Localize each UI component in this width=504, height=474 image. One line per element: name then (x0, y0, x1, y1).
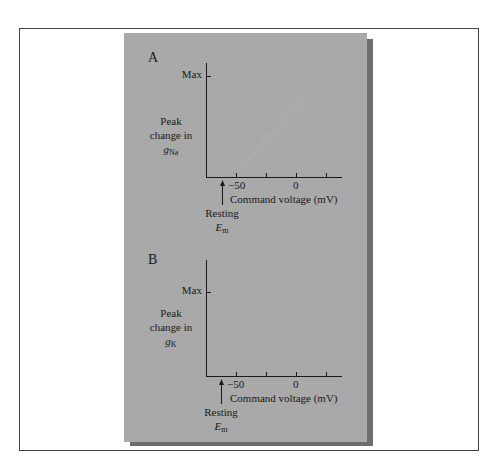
x-tick-neg50-a: −50 (228, 179, 245, 191)
plot-b: B Max Peak change in gK −50 0 Command vo… (124, 233, 367, 442)
resting-text-a: Resting (197, 206, 247, 220)
resting-em-label-b: Resting Em (196, 405, 246, 437)
resting-sub-b: m (221, 425, 227, 434)
x-tick-0-a: 0 (293, 179, 299, 191)
resting-text-b: Resting (196, 405, 246, 419)
resting-symbol-b: Em (196, 419, 246, 437)
plot-a: A Max Peak change in gNa −50 0 Command v… (124, 33, 367, 238)
x-axis-label-a: Command voltage (mV) (230, 193, 338, 205)
x-axis-label-b: Command voltage (mV) (230, 392, 338, 404)
figure-panel: A Max Peak change in gNa −50 0 Command v… (124, 33, 367, 442)
x-tick-neg50-b: −50 (227, 378, 244, 390)
x-tick-0-b: 0 (293, 378, 299, 390)
